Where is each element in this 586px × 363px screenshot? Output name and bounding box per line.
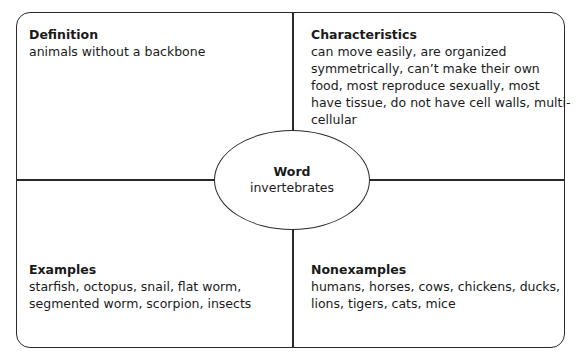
nonexamples-title: Nonexamples	[311, 262, 561, 278]
examples-title: Examples	[29, 262, 279, 278]
examples-text: starfish, octopus, snail, flat worm, seg…	[29, 278, 279, 312]
nonexamples-text: humans, horses, cows, chickens, ducks, l…	[311, 278, 561, 312]
nonexamples-quadrant: Nonexamples humans, horses, cows, chicke…	[311, 262, 561, 312]
definition-title: Definition	[29, 27, 279, 43]
characteristics-title: Characteristics	[311, 27, 571, 43]
definition-text: animals without a backbone	[29, 43, 279, 60]
examples-quadrant: Examples starfish, octopus, snail, flat …	[29, 262, 279, 312]
definition-quadrant: Definition animals without a backbone	[29, 27, 279, 60]
characteristics-text: can move easily, are organized symmetric…	[311, 43, 571, 128]
word-title: Word	[273, 164, 310, 180]
characteristics-quadrant: Characteristics can move easily, are org…	[311, 27, 571, 128]
word-text: invertebrates	[250, 180, 334, 196]
word-ellipse: Word invertebrates	[214, 130, 370, 230]
